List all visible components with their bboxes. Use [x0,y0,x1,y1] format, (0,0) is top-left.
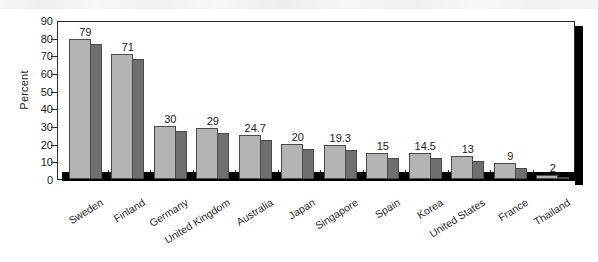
bar-value-label: 79 [61,27,110,38]
plot-area: 7971302924.72019.31514.51392 [57,21,575,180]
bar-side-face [473,161,484,179]
bar-value-label: 71 [103,42,152,53]
y-axis-tick-label: 40 [27,104,53,114]
bar-side-face [516,168,527,179]
bar-front-face [111,54,133,179]
bar-group [409,20,442,179]
bar-group [536,20,569,179]
y-axis-tick-label: 90 [27,16,53,26]
bar-side-face [303,149,314,179]
bar-value-label: 9 [486,151,535,162]
y-axis-tick-label: 60 [27,69,53,79]
bar-front-face [69,39,91,179]
bar-side-face [133,59,144,179]
bar-front-face [154,126,176,179]
bar-group [281,20,314,179]
bar-group [69,20,102,179]
bar-front-face [239,135,261,179]
bar-side-face [431,158,442,179]
bar-group [239,20,272,179]
bar-front-face [196,128,218,179]
bar-group [196,20,229,179]
y-axis-tick-label: 70 [27,51,53,61]
bar-front-face [281,144,303,179]
bar-side-face [91,44,102,179]
frame-shadow-right [575,26,583,185]
bar-front-face [536,175,558,179]
y-axis-tick-label: 10 [27,157,53,167]
y-axis-tick-label: 0 [27,175,53,185]
bar-side-face [218,133,229,179]
y-axis-tick-label: 30 [27,122,53,132]
y-axis-tick-label: 80 [27,34,53,44]
bar-front-face [324,145,346,179]
bar-group [451,20,484,179]
bar-side-face [261,140,272,179]
bar-front-face [409,153,431,179]
bar-front-face [494,163,516,179]
bar-side-face [558,177,569,179]
bar-front-face [366,153,388,180]
y-axis-tick-label: 50 [27,87,53,97]
bar-group [366,20,399,179]
bar-group [154,20,187,179]
bar-side-face [388,158,399,180]
bar-side-face [176,131,187,179]
bar-side-face [346,150,357,179]
y-axis-tick-label: 20 [27,140,53,150]
bar-group [324,20,357,179]
bar-front-face [451,156,473,179]
bar-chart: Percent 0102030405060708090 7971302924.7… [0,0,598,262]
